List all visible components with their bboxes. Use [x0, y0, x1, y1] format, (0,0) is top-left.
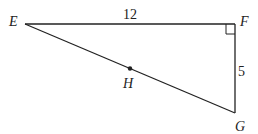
side-label-ef: 12: [123, 7, 137, 22]
side-label-fg: 5: [238, 64, 245, 79]
point-h: [128, 66, 132, 70]
vertex-label-g: G: [235, 119, 245, 134]
right-angle-marker: [226, 24, 235, 34]
point-label-h: H: [122, 76, 134, 91]
vertex-label-f: F: [239, 14, 249, 29]
vertex-label-e: E: [8, 14, 18, 29]
triangle-diagram: E F G H 12 5: [0, 0, 258, 134]
